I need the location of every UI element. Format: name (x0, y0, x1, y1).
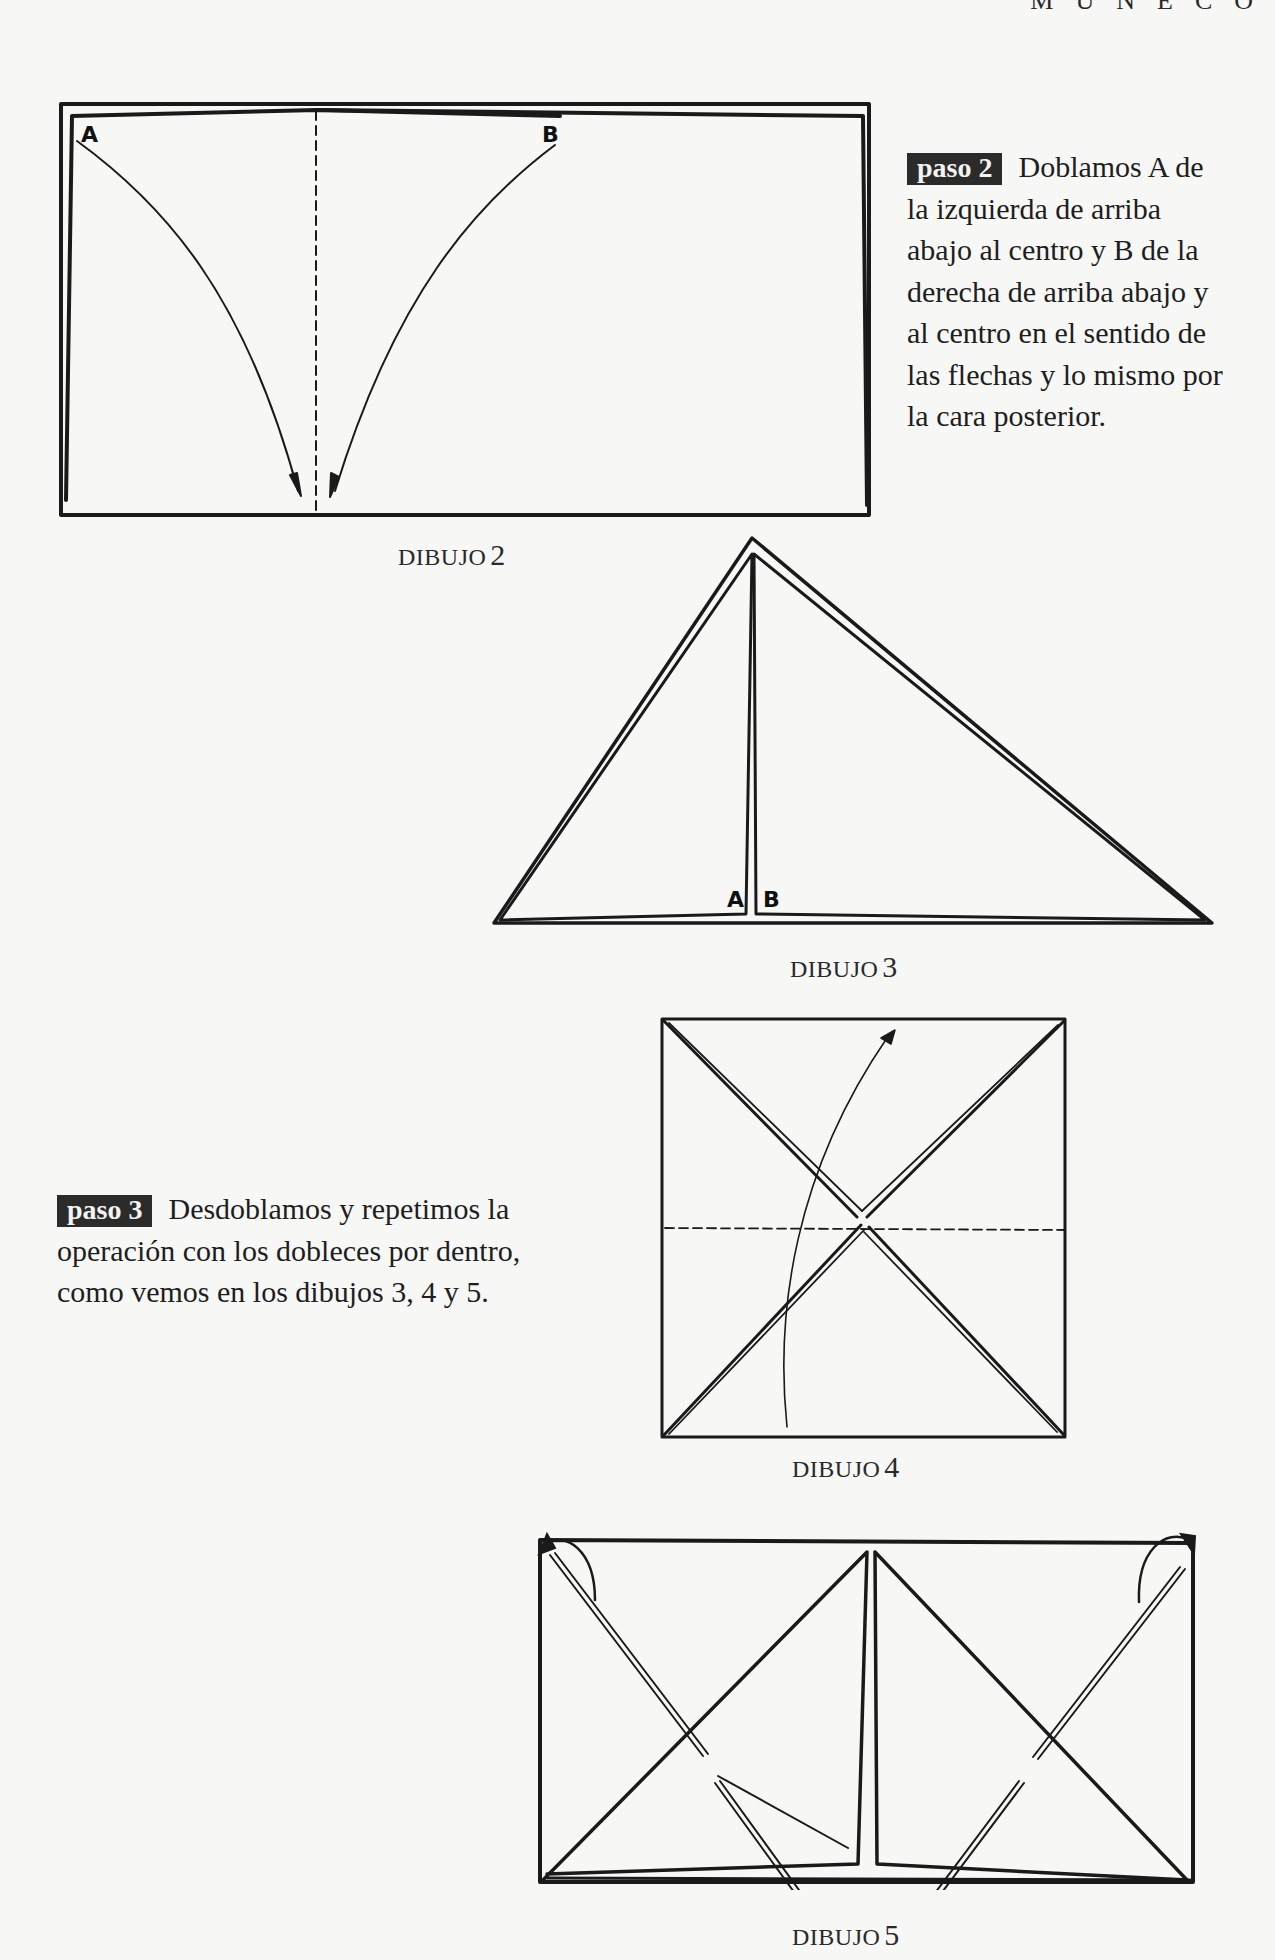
step-2-badge: paso 2 (907, 153, 1002, 185)
step-2-text: paso 2Doblamos A de la izquierda de arri… (907, 146, 1267, 437)
diagram-3: A B (490, 530, 1220, 930)
diagram-2-drawing: A B (55, 95, 875, 525)
diagram-5-drawing (535, 1510, 1210, 1890)
label-a: A (727, 887, 744, 912)
label-a: A (81, 122, 98, 147)
diagram-4 (655, 1012, 1075, 1442)
diagram-4-drawing (655, 1012, 1075, 1442)
diagram-5 (535, 1510, 1210, 1890)
caption-dibujo-3: DIBUJO3 (790, 950, 898, 984)
running-head-text: MUÑECO (1030, 0, 1275, 15)
step-3-badge: paso 3 (57, 1195, 152, 1227)
running-head: MUÑECO (1030, 0, 1275, 16)
diagram-3-drawing: A B (490, 530, 1220, 930)
label-b: B (763, 887, 780, 912)
label-b: B (542, 122, 559, 147)
step-3-text: paso 3Desdoblamos y repetimos la operaci… (57, 1188, 617, 1313)
diagram-2: A B (55, 95, 875, 525)
caption-dibujo-4: DIBUJO4 (792, 1450, 900, 1484)
caption-dibujo-5: DIBUJO5 (792, 1918, 900, 1952)
